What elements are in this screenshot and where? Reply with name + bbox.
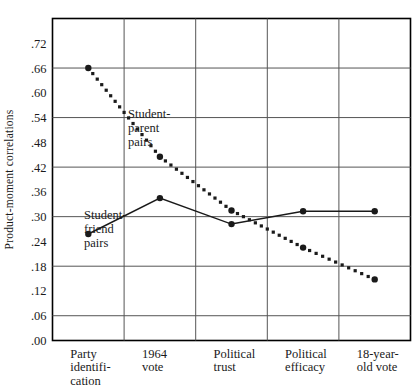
x-axis-tick-label: efficacy bbox=[285, 360, 326, 374]
student-parent-label: pairs bbox=[128, 135, 152, 149]
series-dot bbox=[334, 260, 337, 263]
y-axis-tick-label: .42 bbox=[31, 161, 47, 175]
x-axis-tick-label: 1964 bbox=[142, 347, 168, 361]
series-dot bbox=[360, 272, 363, 275]
y-axis-tick-label: .30 bbox=[31, 210, 47, 224]
y-axis-tick-label: .24 bbox=[31, 235, 47, 249]
data-point-marker bbox=[372, 208, 378, 214]
data-point-marker bbox=[372, 276, 378, 282]
y-axis-tick-label: .54 bbox=[31, 111, 47, 125]
data-point-marker bbox=[157, 195, 163, 201]
series-dot bbox=[254, 221, 257, 224]
series-dot bbox=[367, 275, 370, 278]
y-axis-tick-label: .00 bbox=[31, 334, 47, 348]
series-dot bbox=[272, 231, 275, 234]
x-axis-tick-label: Political bbox=[214, 347, 256, 361]
series-dot bbox=[180, 172, 183, 175]
series-dot bbox=[191, 180, 194, 183]
series-dot bbox=[175, 168, 178, 171]
y-axis-tick-label: .12 bbox=[31, 284, 47, 298]
series-dot bbox=[164, 159, 167, 162]
y-axis-tick-label: .06 bbox=[31, 309, 47, 323]
series-dot bbox=[91, 72, 94, 75]
series-dot bbox=[321, 255, 324, 258]
data-point-marker bbox=[228, 207, 234, 213]
series-dot bbox=[186, 176, 189, 179]
student-parent-label: parent bbox=[128, 121, 160, 135]
series-dot bbox=[96, 78, 99, 81]
y-axis-tick-label: .18 bbox=[31, 260, 47, 274]
series-dot bbox=[118, 105, 121, 108]
series-dot bbox=[114, 100, 117, 103]
y-axis-tick-label: .66 bbox=[31, 62, 47, 76]
series-dot bbox=[341, 263, 344, 266]
data-point-marker bbox=[228, 221, 234, 227]
student-friend-label: friend bbox=[84, 222, 115, 236]
series-dot bbox=[308, 249, 311, 252]
data-point-marker bbox=[157, 154, 163, 160]
data-point-marker bbox=[85, 65, 91, 71]
chart-figure: .00.06.12.18.24.30.36.42.48.54.60.66.72P… bbox=[0, 0, 419, 391]
series-dot bbox=[169, 163, 172, 166]
x-axis-tick-label: identifi- bbox=[70, 360, 110, 374]
series-dot bbox=[219, 201, 222, 204]
data-point-marker bbox=[300, 244, 306, 250]
series-dot bbox=[109, 94, 112, 97]
x-axis-tick-label: cation bbox=[70, 374, 101, 388]
series-dot bbox=[315, 252, 318, 255]
y-axis-tick-label: .60 bbox=[31, 86, 47, 100]
x-axis-tick-label: 18-year- bbox=[357, 347, 399, 361]
x-axis-tick-label: Party bbox=[70, 347, 97, 361]
series-dot bbox=[328, 258, 331, 261]
y-axis-tick-label: .48 bbox=[31, 136, 47, 150]
series-dot bbox=[266, 227, 269, 230]
series-dot bbox=[347, 266, 350, 269]
series-dot bbox=[105, 89, 108, 92]
correlation-line-chart: .00.06.12.18.24.30.36.42.48.54.60.66.72P… bbox=[0, 0, 419, 391]
y-axis-title: Product-moment correlations bbox=[3, 109, 15, 249]
series-dot bbox=[236, 212, 239, 215]
y-axis-tick-label: .36 bbox=[31, 185, 47, 199]
x-axis-tick-label: vote bbox=[142, 360, 164, 374]
series-dot bbox=[354, 269, 357, 272]
student-parent-label: Student- bbox=[128, 107, 170, 121]
data-point-marker bbox=[300, 208, 306, 214]
series-dot bbox=[278, 234, 281, 237]
x-axis-tick-label: old vote bbox=[357, 360, 398, 374]
series-dot bbox=[242, 215, 245, 218]
series-dot bbox=[197, 184, 200, 187]
student-friend-label: pairs bbox=[84, 236, 108, 250]
x-axis-tick-label: Political bbox=[285, 347, 327, 361]
series-dot bbox=[208, 192, 211, 195]
series-dot bbox=[100, 83, 103, 86]
x-axis-tick-label: trust bbox=[214, 360, 237, 374]
series-dot bbox=[296, 243, 299, 246]
series-dot bbox=[202, 188, 205, 191]
series-dot bbox=[123, 111, 126, 114]
series-dot bbox=[290, 240, 293, 243]
y-axis-tick-label: .72 bbox=[31, 37, 47, 51]
series-dot bbox=[154, 150, 157, 153]
series-dot bbox=[224, 205, 227, 208]
series-dot bbox=[260, 224, 263, 227]
student-friend-label: Student- bbox=[84, 208, 126, 222]
series-dot bbox=[284, 237, 287, 240]
series-dot bbox=[213, 196, 216, 199]
